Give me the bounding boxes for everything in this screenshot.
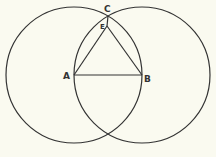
geometry-diagram: C E A B bbox=[0, 0, 216, 157]
label-c: C bbox=[104, 4, 111, 14]
label-a: A bbox=[63, 71, 70, 81]
segment-be bbox=[107, 26, 142, 75]
label-e: E bbox=[100, 23, 105, 31]
label-b: B bbox=[144, 74, 151, 84]
segment-ec bbox=[107, 16, 108, 26]
